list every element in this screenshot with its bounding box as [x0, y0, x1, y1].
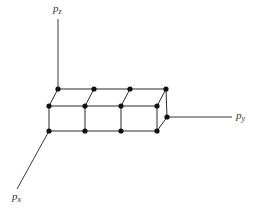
- lattice-node: [154, 128, 159, 133]
- edge: [157, 89, 166, 106]
- pz-axis-label: pz: [53, 3, 62, 16]
- lattice-node: [154, 103, 159, 108]
- px-axis-label: px: [12, 191, 21, 204]
- lattice-node: [164, 114, 169, 119]
- py-axis-label: py: [236, 110, 245, 123]
- lattice-node: [118, 103, 123, 108]
- lattice-node: [82, 103, 87, 108]
- lattice-node: [82, 128, 87, 133]
- edge: [166, 89, 167, 117]
- lattice-node: [118, 128, 123, 133]
- py-label-sub: y: [242, 114, 246, 123]
- lattice-node: [127, 86, 132, 91]
- lattice-node: [55, 86, 60, 91]
- lattice-figure: [0, 0, 262, 214]
- px-label-sub: x: [18, 195, 22, 204]
- pz-label-sub: z: [59, 7, 62, 16]
- edge: [49, 89, 58, 106]
- lattice-node: [163, 86, 168, 91]
- momentum-lattice-diagram: pz py px: [0, 0, 262, 214]
- lattice-node: [46, 128, 51, 133]
- lattice-node: [91, 86, 96, 91]
- edge: [85, 89, 94, 106]
- px-axis: [17, 131, 49, 189]
- lattice-node: [46, 103, 51, 108]
- edge: [121, 89, 130, 106]
